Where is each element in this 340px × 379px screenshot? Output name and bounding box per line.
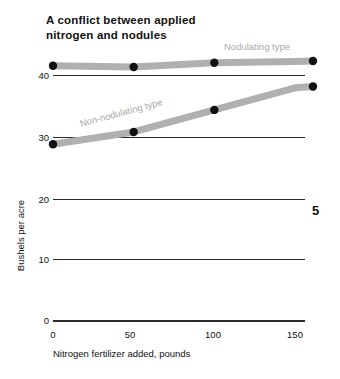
series-layer bbox=[0, 0, 340, 379]
data-point-marker bbox=[49, 140, 57, 148]
data-point-marker bbox=[309, 82, 317, 90]
data-point-marker bbox=[210, 106, 218, 114]
plot-area: 40 30 20 10 0 0 50 100 150 Nitrogen fert… bbox=[0, 0, 340, 379]
series-band bbox=[53, 61, 313, 67]
data-point-marker bbox=[210, 59, 218, 67]
data-point-marker bbox=[129, 63, 137, 71]
data-point-marker bbox=[129, 128, 137, 136]
data-point-marker bbox=[309, 57, 317, 65]
series-nodulating-type bbox=[49, 57, 317, 72]
data-point-marker bbox=[49, 62, 57, 70]
figure-chart: A conflict between applied nitrogen and … bbox=[0, 0, 340, 379]
series-label-nodulating: Nodulating type bbox=[224, 41, 290, 52]
